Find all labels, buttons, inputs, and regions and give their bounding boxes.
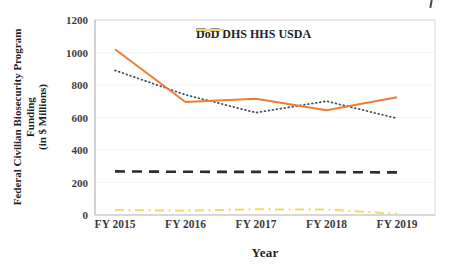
legend-item-dhs: DHS [222,27,247,42]
x-tick-label: FY 2019 [367,218,427,230]
y-tick-label: 1200 [48,14,88,26]
legend-label-dhs: DHS [222,27,247,42]
series-line-dhs [115,49,397,110]
y-tick-label: 400 [48,144,88,156]
y-axis-title: Federal Civilian Biosecurity Program Fun… [11,9,49,225]
legend-item-usda: USDA [278,27,311,42]
x-tick-label: FY 2016 [156,218,216,230]
x-tick-label: FY 2017 [226,218,286,230]
y-tick-label: 600 [48,112,88,124]
legend-label-hhs: HHS [250,27,275,42]
y-tick-label: 1000 [48,47,88,59]
x-axis-title: Year [95,245,435,261]
y-tick-label: 200 [48,177,88,189]
series-line-usda [115,209,397,213]
x-tick-label: FY 2018 [297,218,357,230]
chart-legend: DoDDHSHHSUSDA [196,26,311,42]
legend-item-hhs: HHS [250,27,275,42]
series-line-dod [115,70,397,118]
y-tick-label: 800 [48,79,88,91]
y-axis-title-line2: Funding [24,9,37,225]
series-line-hhs [115,171,397,172]
chart-figure: Federal Civilian Biosecurity Program Fun… [0,0,449,273]
x-tick-label: FY 2015 [85,218,145,230]
y-tick-label: 0 [48,209,88,221]
y-axis-title-line1: Federal Civilian Biosecurity Program [11,9,24,225]
legend-line-sample-usda [196,26,224,34]
legend-label-usda: USDA [278,27,311,42]
